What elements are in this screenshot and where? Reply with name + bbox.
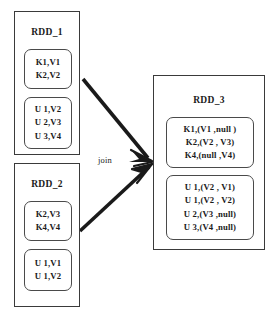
rdd3-partition-2[interactable]: U 1,(V2 , V1) U 1,(V2 , V2) U 2,(V3 ,nul… — [166, 175, 254, 240]
partition-row: U 1,V2 — [35, 103, 61, 116]
partition-row: K1,(V1 ,null ) — [184, 123, 237, 136]
partition-row: K4,V4 — [36, 221, 61, 234]
partition-row: K2,V2 — [36, 69, 61, 82]
partition-row: K2,V3 — [36, 208, 61, 221]
rdd1-partition-2[interactable]: U 1,V2 U 2,V3 U 3,V4 — [24, 97, 72, 149]
partition-row: U 1,(V2 , V2) — [185, 194, 235, 207]
join-edge-label: join — [98, 155, 112, 165]
rdd3-partition-1[interactable]: K1,(V1 ,null ) K2,(V2 , V3) K4,(null ,V4… — [166, 117, 254, 168]
rdd1-partition-1[interactable]: K1,V1 K2,V2 — [24, 49, 72, 89]
rdd2-partition-1[interactable]: K2,V3 K4,V4 — [24, 201, 72, 241]
partition-row: U 3,(V4 ,null) — [184, 221, 236, 234]
partition-row: U 1,(V2 , V1) — [185, 181, 235, 194]
diagram-canvas: RDD_1 K1,V1 K2,V2 U 1,V2 U 2,V3 U 3,V4 R… — [0, 0, 274, 323]
arrow-rdd1-to-rdd3 — [83, 79, 153, 166]
rdd3-title: RDD_3 — [154, 95, 264, 105]
rdd2-partition-2[interactable]: U 1,V1 U 1,V2 — [24, 249, 72, 291]
partition-row: U 3,V4 — [35, 130, 61, 143]
partition-row: U 2,(V3 ,null) — [184, 208, 236, 221]
rdd2-title: RDD_2 — [15, 179, 79, 189]
partition-row: U 1,V1 — [35, 257, 61, 270]
partition-row: K2,(V2 , V3) — [186, 136, 234, 149]
partition-row: U 2,V3 — [35, 116, 61, 129]
partition-row: K4,(null ,V4) — [185, 149, 235, 162]
partition-row: U 1,V2 — [35, 270, 61, 283]
rdd-node-rdd1[interactable]: RDD_1 K1,V1 K2,V2 U 1,V2 U 2,V3 U 3,V4 — [14, 11, 80, 155]
rdd-node-rdd2[interactable]: RDD_2 K2,V3 K4,V4 U 1,V1 U 1,V2 — [14, 163, 80, 307]
partition-row: K1,V1 — [36, 56, 61, 69]
rdd-node-rdd3[interactable]: RDD_3 K1,(V1 ,null ) K2,(V2 , V3) K4,(nu… — [153, 75, 265, 250]
arrow-rdd2-to-rdd3 — [80, 163, 153, 231]
rdd1-title: RDD_1 — [15, 27, 79, 37]
